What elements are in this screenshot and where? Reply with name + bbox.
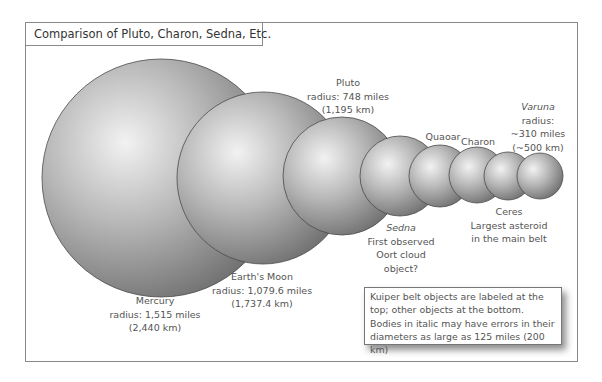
- legend-note: Kuiper belt objects are labeled at the t…: [364, 287, 562, 345]
- quaoar-name: Quaoar: [426, 130, 461, 144]
- varuna-name: Varuna: [511, 100, 565, 114]
- moon-radius: radius: 1,079.6 miles: [212, 284, 312, 298]
- ceres-desc-1: Largest asteroid: [471, 219, 548, 233]
- pluto-name: Pluto: [307, 76, 389, 90]
- charon-name: Charon: [461, 135, 495, 149]
- label-varuna: Varuna radius: ~310 miles (~500 km): [511, 100, 565, 154]
- label-quaoar: Quaoar: [426, 130, 461, 144]
- pluto-radius: radius: 748 miles: [307, 90, 389, 104]
- label-charon: Charon: [461, 135, 495, 149]
- sedna-desc-2: Oort cloud: [367, 248, 434, 262]
- sedna-desc-1: First observed: [367, 235, 434, 249]
- mercury-radius: radius: 1,515 miles: [109, 308, 200, 322]
- label-mercury: Mercury radius: 1,515 miles (2,440 km): [109, 294, 200, 335]
- moon-name: Earth's Moon: [212, 270, 312, 284]
- diagram-title: Comparison of Pluto, Charon, Sedna, Etc.: [25, 22, 263, 46]
- pluto-km: (1,195 km): [307, 103, 389, 117]
- ceres-desc-2: in the main belt: [471, 232, 548, 246]
- sedna-name: Sedna: [367, 221, 434, 235]
- mercury-name: Mercury: [109, 294, 200, 308]
- varuna-km: (~500 km): [511, 141, 565, 155]
- label-pluto: Pluto radius: 748 miles (1,195 km): [307, 76, 389, 117]
- label-ceres: Ceres Largest asteroid in the main belt: [471, 205, 548, 246]
- varuna-miles: ~310 miles: [511, 127, 565, 141]
- moon-km: (1,737.4 km): [212, 297, 312, 311]
- label-sedna: Sedna First observed Oort cloud object?: [367, 221, 434, 275]
- sedna-desc-3: object?: [367, 262, 434, 276]
- ceres-name: Ceres: [471, 205, 548, 219]
- mercury-km: (2,440 km): [109, 321, 200, 335]
- label-moon: Earth's Moon radius: 1,079.6 miles (1,73…: [212, 270, 312, 311]
- sphere-varuna: [517, 153, 563, 199]
- varuna-radius-label: radius:: [511, 114, 565, 128]
